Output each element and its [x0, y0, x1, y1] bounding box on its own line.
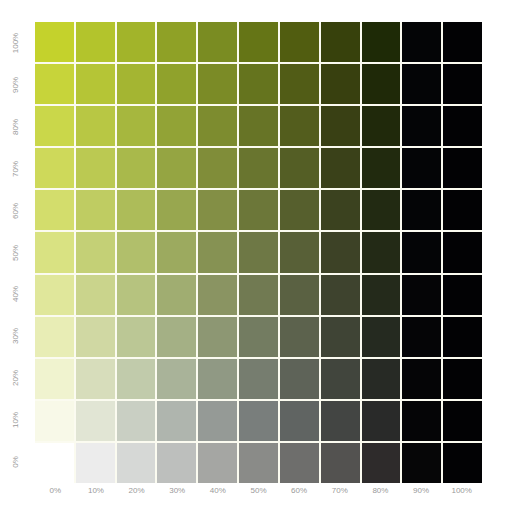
swatch-cell [117, 443, 156, 483]
swatch-cell [443, 190, 482, 230]
swatch-cell [362, 359, 401, 399]
x-axis-label: 40% [198, 486, 238, 495]
swatch-cell [443, 359, 482, 399]
swatch-cell [362, 443, 401, 483]
swatch-cell [157, 232, 196, 272]
swatch-cell [443, 22, 482, 62]
swatch-cell [402, 106, 441, 146]
x-axis-label: 20% [117, 486, 157, 495]
swatch-cell [198, 232, 237, 272]
swatch-cell [321, 64, 360, 104]
swatch-cell [321, 359, 360, 399]
swatch-cell [321, 317, 360, 357]
swatch-cell [239, 64, 278, 104]
swatch-cell [198, 22, 237, 62]
swatch-cell [198, 317, 237, 357]
x-axis-label: 100% [442, 486, 482, 495]
swatch-cell [198, 148, 237, 188]
x-axis-label: 60% [279, 486, 319, 495]
swatch-cell [239, 190, 278, 230]
y-axis-label: 50% [11, 238, 23, 268]
swatch-cell [239, 232, 278, 272]
swatch-cell [280, 443, 319, 483]
swatch-cell [35, 359, 74, 399]
swatch-cell [35, 64, 74, 104]
swatch-cell [321, 232, 360, 272]
swatch-cell [157, 275, 196, 315]
swatch-cell [321, 22, 360, 62]
swatch-cell [198, 275, 237, 315]
y-axis-label: 20% [11, 363, 23, 393]
swatch-cell [280, 106, 319, 146]
y-axis-label: 0% [11, 447, 23, 477]
y-axis-label: 40% [11, 279, 23, 309]
y-axis-label: 90% [11, 70, 23, 100]
y-axis-label: 80% [11, 112, 23, 142]
y-axis-label: 30% [11, 321, 23, 351]
swatch-cell [198, 401, 237, 441]
swatch-cell [35, 148, 74, 188]
swatch-cell [280, 64, 319, 104]
swatch-cell [76, 232, 115, 272]
swatch-cell [321, 190, 360, 230]
swatch-cell [362, 22, 401, 62]
swatch-cell [402, 148, 441, 188]
swatch-cell [117, 232, 156, 272]
swatch-cell [239, 106, 278, 146]
y-axis-label: 60% [11, 196, 23, 226]
swatch-cell [157, 401, 196, 441]
swatch-cell [280, 359, 319, 399]
swatch-cell [239, 443, 278, 483]
x-axis-label: 50% [239, 486, 279, 495]
swatch-cell [362, 232, 401, 272]
swatch-cell [362, 275, 401, 315]
swatch-cell [117, 275, 156, 315]
swatch-cell [443, 232, 482, 272]
swatch-cell [117, 401, 156, 441]
y-axis-label: 10% [11, 405, 23, 435]
swatch-cell [443, 64, 482, 104]
swatch-cell [76, 275, 115, 315]
swatch-cell [402, 232, 441, 272]
swatch-cell [362, 106, 401, 146]
swatch-cell [321, 443, 360, 483]
x-axis-label: 0% [35, 486, 75, 495]
swatch-cell [117, 22, 156, 62]
swatch-cell [443, 443, 482, 483]
swatch-cell [198, 64, 237, 104]
swatch-cell [402, 190, 441, 230]
swatch-cell [35, 443, 74, 483]
swatch-cell [321, 275, 360, 315]
swatch-cell [443, 148, 482, 188]
swatch-cell [280, 232, 319, 272]
swatch-cell [76, 22, 115, 62]
swatch-cell [239, 148, 278, 188]
swatch-cell [321, 401, 360, 441]
swatch-cell [321, 148, 360, 188]
swatch-cell [239, 317, 278, 357]
color-swatch-grid [35, 22, 482, 483]
swatch-cell [35, 22, 74, 62]
swatch-cell [76, 190, 115, 230]
swatch-cell [321, 106, 360, 146]
x-axis-label: 70% [320, 486, 360, 495]
swatch-cell [76, 106, 115, 146]
swatch-cell [35, 275, 74, 315]
x-axis-label: 80% [360, 486, 400, 495]
swatch-cell [362, 190, 401, 230]
swatch-cell [35, 401, 74, 441]
swatch-cell [443, 106, 482, 146]
swatch-cell [157, 317, 196, 357]
swatch-cell [117, 190, 156, 230]
swatch-cell [362, 148, 401, 188]
swatch-cell [76, 443, 115, 483]
swatch-cell [280, 401, 319, 441]
swatch-cell [402, 443, 441, 483]
swatch-cell [76, 148, 115, 188]
swatch-cell [402, 22, 441, 62]
swatch-cell [280, 317, 319, 357]
swatch-cell [117, 148, 156, 188]
swatch-cell [117, 64, 156, 104]
swatch-cell [402, 359, 441, 399]
swatch-cell [157, 106, 196, 146]
